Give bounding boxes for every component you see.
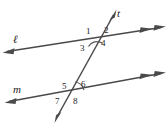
line-m-right-arrowhead-outer xyxy=(154,71,167,77)
angle-label-6: 6 xyxy=(81,80,86,89)
angle-label-3: 3 xyxy=(80,44,85,53)
line-label-m: m xyxy=(13,84,21,95)
angle-label-1: 1 xyxy=(86,27,91,36)
angle-label-7: 7 xyxy=(55,97,60,106)
line-m-left-arrowhead xyxy=(5,98,17,104)
line-m-right-arrowhead-inner xyxy=(140,73,153,79)
geometry-figure: .ln { stroke: #4a4a4a; stroke-width: 1.6… xyxy=(0,0,168,129)
line-l-right-arrowhead-inner xyxy=(140,27,153,33)
angle-label-5: 5 xyxy=(62,82,67,91)
angle-label-2: 2 xyxy=(104,26,109,35)
angle-label-8: 8 xyxy=(73,97,78,106)
line-l-left-arrowhead xyxy=(3,48,15,54)
line-label-t: t xyxy=(117,8,120,19)
line-l-right-arrowhead-outer xyxy=(154,25,167,31)
geometry-canvas: .ln { stroke: #4a4a4a; stroke-width: 1.6… xyxy=(0,0,168,129)
angle-label-4: 4 xyxy=(101,39,106,48)
line-label-l: ℓ xyxy=(13,34,18,45)
line-t-top-arrowhead xyxy=(109,10,116,21)
